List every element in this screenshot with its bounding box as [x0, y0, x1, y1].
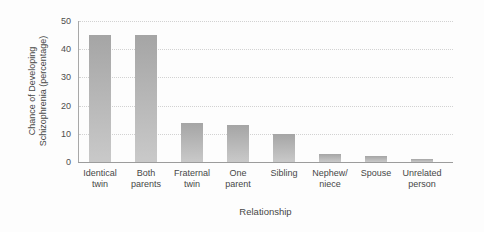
y-tick-label-40: 40 — [0, 44, 71, 54]
gridline-50 — [79, 21, 453, 22]
y-tick-label-10: 10 — [0, 129, 71, 139]
bar-one-parent — [227, 125, 249, 162]
y-axis-title-line1: Chance of Developing — [27, 20, 38, 162]
y-axis-title: Chance of Developing Schizophrenia (perc… — [27, 20, 49, 162]
schizophrenia-bar-chart: Chance of Developing Schizophrenia (perc… — [0, 0, 484, 232]
bar-spouse — [365, 156, 387, 162]
y-tick-label-0: 0 — [0, 157, 71, 167]
bar-nephew-niece — [319, 154, 341, 162]
bar-both-parents — [135, 35, 157, 162]
y-tick-label-30: 30 — [0, 72, 71, 82]
y-tick-label-50: 50 — [0, 16, 71, 26]
bar-sibling — [273, 134, 295, 162]
y-axis-line — [78, 21, 79, 162]
bar-unrelated-person — [411, 159, 433, 162]
y-axis-title-line2: Schizophrenia (percentage) — [38, 20, 49, 162]
x-axis-baseline — [78, 162, 453, 163]
y-tick-label-20: 20 — [0, 101, 71, 111]
bar-fraternal-twin — [181, 123, 203, 162]
x-category-label-unrelated-person: Unrelatedperson — [392, 168, 452, 190]
x-axis-title: Relationship — [78, 206, 453, 217]
bar-identical-twin — [89, 35, 111, 162]
